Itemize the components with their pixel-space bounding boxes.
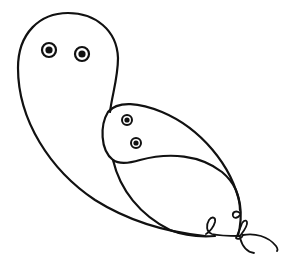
drawing-canvas [0,0,292,277]
large-ghost-eye-left [42,43,56,57]
large-ghost-eye-right [75,47,89,61]
background [0,0,292,277]
small-ghost-eye-top [122,115,132,125]
small-ghost-eye-bottom [131,138,141,148]
